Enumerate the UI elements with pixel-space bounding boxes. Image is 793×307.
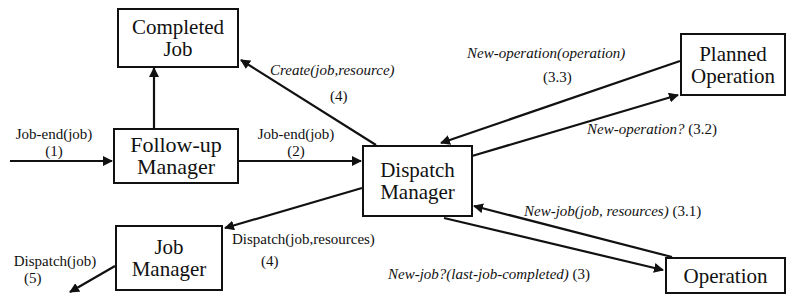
edge-label-new-job-query: New-job?(last-job-completed) (3) [388,266,590,283]
edge-label-create-completed-step: (4) [330,88,348,105]
edge-label-new-operation-query: New-operation? (3.2) [587,121,717,138]
node-label: Job [132,38,224,60]
edge-label-dispatch-out: Dispatch(job) (5) [2,253,108,287]
node-label: Operation [684,265,768,287]
edge-label-new-job-reply: New-job(job, resources) (3.1) [524,203,701,220]
edge-label-new-operation-reply-step: (3.3) [543,69,572,86]
node-label: Completed [132,16,224,38]
node-planned-operation: PlannedOperation [680,33,786,96]
node-label: Follow-up [130,134,222,156]
node-followup-manager: Follow-upManager [113,128,239,184]
edge-step: (3.2) [688,121,717,137]
node-dispatch-manager: DispatchManager [362,145,473,217]
node-completed-job: CompletedJob [117,8,239,68]
edge-label-create-completed: Create(job,resource) [270,62,395,79]
edge-message: Job-end(job) [4,126,104,143]
edge-message: New-job(job, resources) [524,203,669,219]
node-label: Planned [691,43,775,65]
node-label: Manager [380,181,455,203]
edge-step: (3) [573,266,591,282]
edge-step: (2) [246,143,346,160]
edge-step: (1) [4,143,104,160]
arrow-dispatch-to-job-manager [225,188,362,228]
edge-step: (3.1) [672,203,701,219]
node-label: Job [132,236,207,258]
edge-message: New-operation? [587,121,685,137]
node-operation: Operation [665,257,786,294]
edge-label-new-operation-reply: New-operation(operation) [467,45,625,62]
edge-label-job-end-in: Job-end(job) (1) [4,126,104,160]
edge-label-job-end-to-dispatch: Job-end(job) (2) [246,126,346,160]
node-label: Manager [132,258,207,280]
node-label: Dispatch [380,159,455,181]
edge-label-dispatch-to-job-manager-step: (4) [261,253,279,270]
node-label: Operation [691,65,775,87]
edge-message: Job-end(job) [246,126,346,143]
edge-message: Dispatch(job) [2,253,108,270]
node-label: Manager [130,156,222,178]
edge-message: New-job?(last-job-completed) [388,266,569,282]
node-job-manager: JobManager [115,225,223,291]
edge-label-dispatch-to-job-manager: Dispatch(job,resources) [232,231,375,248]
edge-step: (5) [2,270,108,287]
